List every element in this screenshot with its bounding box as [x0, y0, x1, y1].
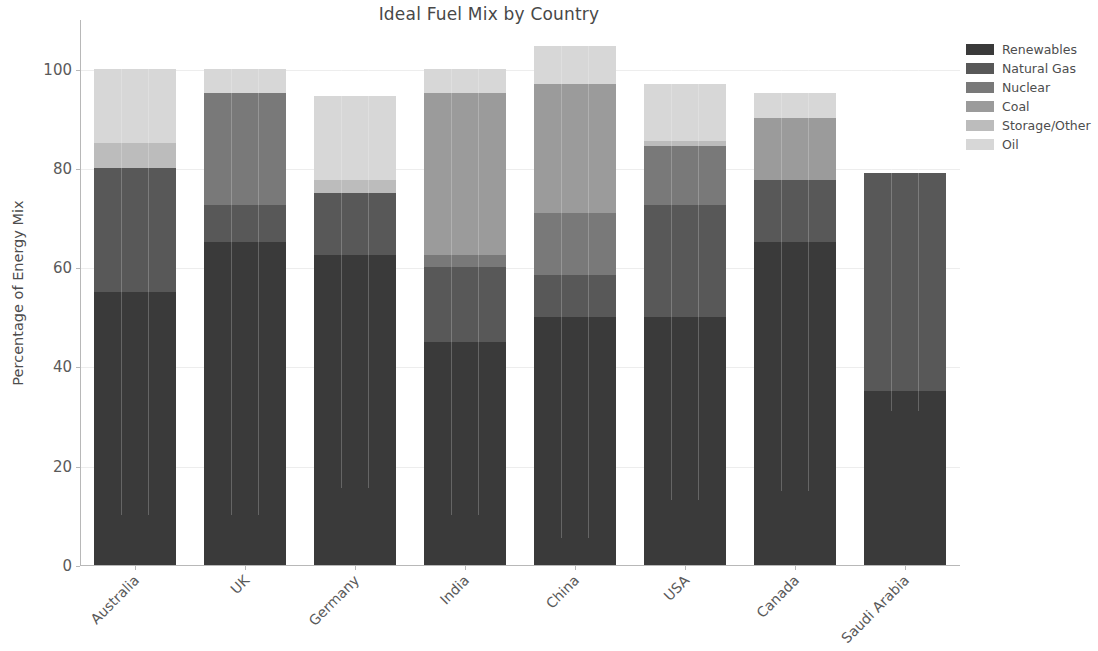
- legend-item-nuclear[interactable]: Nuclear: [966, 78, 1094, 97]
- y-tick-mark: [76, 367, 80, 368]
- x-tick-mark: [355, 566, 356, 570]
- x-tick-mark: [905, 566, 906, 570]
- bar-segment-oil[interactable]: [754, 93, 835, 118]
- y-tick-mark: [76, 467, 80, 468]
- bar-segment-natural-gas[interactable]: [314, 193, 395, 255]
- bar-segment-oil[interactable]: [644, 84, 725, 141]
- bar-segment-renewables[interactable]: [94, 292, 175, 565]
- legend-item-renewables[interactable]: Renewables: [966, 40, 1094, 59]
- x-tick-mark: [135, 566, 136, 570]
- bar-usa[interactable]: [644, 19, 725, 565]
- plot-area: 020406080100 AustraliaUKGermanyIndiaChin…: [80, 20, 960, 566]
- legend-swatch-icon: [966, 44, 994, 55]
- legend: RenewablesNatural GasNuclearCoalStorage/…: [966, 40, 1094, 154]
- legend-swatch-icon: [966, 63, 994, 74]
- legend-item-natural-gas[interactable]: Natural Gas: [966, 59, 1094, 78]
- bar-segment-oil[interactable]: [204, 69, 285, 94]
- x-axis-spine: [80, 565, 960, 566]
- x-tick-mark: [245, 566, 246, 570]
- legend-swatch-icon: [966, 139, 994, 150]
- legend-label: Renewables: [1002, 42, 1077, 57]
- x-tick-label-usa: USA: [661, 572, 693, 604]
- bar-segment-storage-other[interactable]: [314, 180, 395, 192]
- bar-segment-renewables[interactable]: [424, 342, 505, 565]
- x-tick-mark: [575, 566, 576, 570]
- chart-figure: Ideal Fuel Mix by Country 020406080100 A…: [0, 0, 1098, 651]
- legend-item-storage-other[interactable]: Storage/Other: [966, 116, 1094, 135]
- y-axis-label: Percentage of Energy Mix: [10, 200, 26, 385]
- legend-label: Natural Gas: [1002, 61, 1076, 76]
- bar-segment-renewables[interactable]: [864, 391, 945, 565]
- bar-segment-coal[interactable]: [534, 84, 615, 213]
- x-tick-label-australia: Australia: [87, 572, 142, 627]
- bar-segment-natural-gas[interactable]: [204, 205, 285, 242]
- legend-label: Nuclear: [1002, 80, 1050, 95]
- bar-segment-oil[interactable]: [94, 69, 175, 143]
- axes: 020406080100 AustraliaUKGermanyIndiaChin…: [80, 20, 960, 566]
- bar-germany[interactable]: [314, 19, 395, 565]
- bar-segment-coal[interactable]: [424, 93, 505, 254]
- legend-item-coal[interactable]: Coal: [966, 97, 1094, 116]
- y-tick-mark: [76, 268, 80, 269]
- bar-segment-oil[interactable]: [424, 69, 505, 94]
- bar-segment-oil[interactable]: [534, 46, 615, 83]
- legend-label: Storage/Other: [1002, 118, 1091, 133]
- bar-australia[interactable]: [94, 19, 175, 565]
- x-tick-label-saudi-arabia: Saudi Arabia: [838, 572, 912, 646]
- bar-segment-renewables[interactable]: [754, 242, 835, 565]
- bar-segment-renewables[interactable]: [314, 255, 395, 565]
- y-tick-label: 0: [36, 557, 72, 575]
- bar-segment-natural-gas[interactable]: [424, 267, 505, 341]
- x-tick-label-india: India: [437, 572, 473, 608]
- bar-uk[interactable]: [204, 19, 285, 565]
- bar-china[interactable]: [534, 19, 615, 565]
- y-tick-label: 20: [36, 458, 72, 476]
- bar-segment-storage-other[interactable]: [644, 141, 725, 146]
- bar-segment-nuclear[interactable]: [204, 93, 285, 205]
- bar-segment-renewables[interactable]: [204, 242, 285, 565]
- bar-saudi-arabia[interactable]: [864, 19, 945, 565]
- bar-segment-natural-gas[interactable]: [644, 205, 725, 317]
- legend-swatch-icon: [966, 82, 994, 93]
- y-tick-mark: [76, 70, 80, 71]
- x-tick-label-china: China: [543, 572, 583, 612]
- bar-segment-coal[interactable]: [754, 118, 835, 180]
- bar-segment-natural-gas[interactable]: [864, 173, 945, 391]
- bar-segment-oil[interactable]: [314, 96, 395, 180]
- x-tick-mark: [685, 566, 686, 570]
- y-axis-spine: [80, 20, 81, 566]
- legend-item-oil[interactable]: Oil: [966, 135, 1094, 154]
- y-tick-label: 80: [36, 160, 72, 178]
- bar-segment-nuclear[interactable]: [424, 255, 505, 267]
- bar-segment-natural-gas[interactable]: [534, 275, 615, 317]
- y-tick-mark: [76, 169, 80, 170]
- bar-segment-renewables[interactable]: [644, 317, 725, 565]
- bar-segment-storage-other[interactable]: [94, 143, 175, 168]
- y-tick-label: 100: [36, 61, 72, 79]
- x-tick-label-uk: UK: [227, 572, 252, 597]
- bar-segment-natural-gas[interactable]: [94, 168, 175, 292]
- bar-canada[interactable]: [754, 19, 835, 565]
- y-tick-mark: [76, 566, 80, 567]
- x-tick-label-germany: Germany: [305, 572, 362, 629]
- legend-swatch-icon: [966, 101, 994, 112]
- bar-india[interactable]: [424, 19, 505, 565]
- y-tick-label: 40: [36, 358, 72, 376]
- bar-segment-nuclear[interactable]: [534, 213, 615, 275]
- y-tick-label: 60: [36, 259, 72, 277]
- bar-segment-renewables[interactable]: [534, 317, 615, 565]
- bar-segment-nuclear[interactable]: [644, 146, 725, 206]
- legend-label: Coal: [1002, 99, 1030, 114]
- legend-swatch-icon: [966, 120, 994, 131]
- bar-segment-natural-gas[interactable]: [754, 180, 835, 242]
- x-tick-mark: [465, 566, 466, 570]
- x-tick-mark: [795, 566, 796, 570]
- x-tick-label-canada: Canada: [753, 572, 802, 621]
- legend-label: Oil: [1002, 137, 1019, 152]
